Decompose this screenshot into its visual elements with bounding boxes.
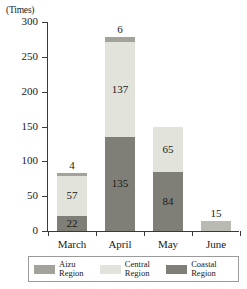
bar-may: 6584 xyxy=(153,127,183,231)
bar-segment: 57 xyxy=(57,176,87,216)
legend-item: Central Region xyxy=(100,260,166,279)
legend-color-swatch xyxy=(34,265,55,274)
bar-segment-value-label: 57 xyxy=(67,190,78,201)
x-axis-line xyxy=(47,231,239,232)
bar-march: 57224 xyxy=(57,173,87,231)
legend-color-swatch xyxy=(100,265,121,274)
y-axis-tick-label: 0 xyxy=(4,225,38,236)
x-axis-label-june: June xyxy=(186,238,246,250)
bar-segment-value-label: 22 xyxy=(67,218,78,229)
bar-segment: 22 xyxy=(57,216,87,231)
bar-segment xyxy=(201,221,231,231)
bar-top-value-label: 4 xyxy=(50,160,94,171)
legend-label: Aizu Region xyxy=(59,260,84,279)
bar-top-value-label: 6 xyxy=(98,24,142,35)
x-axis-tick xyxy=(144,231,145,236)
legend-item: Coastal Region xyxy=(166,260,233,279)
y-axis-tick-label: 300 xyxy=(4,16,38,27)
y-axis-tick-label: 100 xyxy=(4,155,38,166)
bar-segment-value-label: 84 xyxy=(163,196,174,207)
bar-top-value-label: 15 xyxy=(194,208,238,219)
y-axis-tick-label: 150 xyxy=(4,121,38,132)
legend-color-swatch xyxy=(166,265,187,274)
bar-segment-value-label: 137 xyxy=(112,84,129,95)
stacked-bar-chart: (Times) 050100150200250300 5722413713566… xyxy=(0,0,247,289)
y-axis-tick-label: 200 xyxy=(4,86,38,97)
x-axis-tick xyxy=(240,231,241,236)
bar-segment: 137 xyxy=(105,42,135,137)
x-axis-tick xyxy=(192,231,193,236)
x-axis-tick xyxy=(96,231,97,236)
bar-june: 15 xyxy=(201,221,231,231)
chart-legend: Aizu RegionCentral RegionCoastal Region xyxy=(28,256,239,282)
y-axis-unit-label: (Times) xyxy=(6,5,34,15)
legend-label: Central Region xyxy=(125,260,150,279)
bar-segment: 135 xyxy=(105,137,135,231)
bar-april: 1371356 xyxy=(105,37,135,231)
bar-segment-value-label: 135 xyxy=(112,178,129,189)
bar-segment-value-label: 65 xyxy=(163,144,174,155)
y-axis-tick-label: 250 xyxy=(4,51,38,62)
plot-area: 572241371356658415 xyxy=(47,22,238,231)
legend-label: Coastal Region xyxy=(191,260,217,279)
y-axis-tick-label: 50 xyxy=(4,190,38,201)
legend-item: Aizu Region xyxy=(34,260,100,279)
bar-segment: 65 xyxy=(153,127,183,172)
bar-segment: 84 xyxy=(153,172,183,231)
x-axis-tick xyxy=(48,231,49,236)
